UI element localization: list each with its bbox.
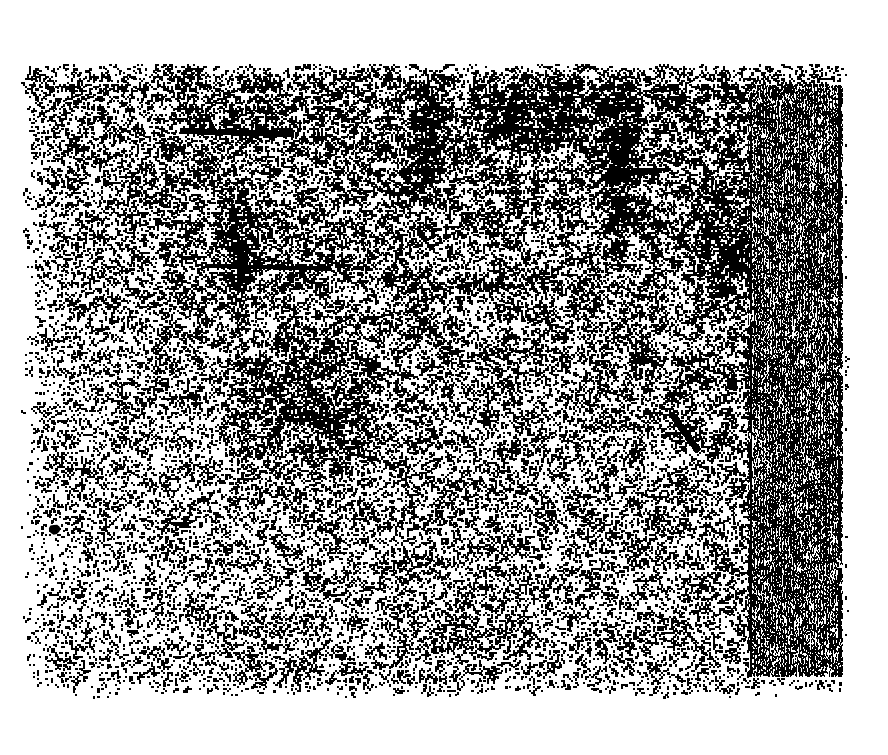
speckle-noise-field xyxy=(0,0,888,755)
degraded-scan-image xyxy=(0,0,888,755)
scanned-page xyxy=(0,0,888,755)
